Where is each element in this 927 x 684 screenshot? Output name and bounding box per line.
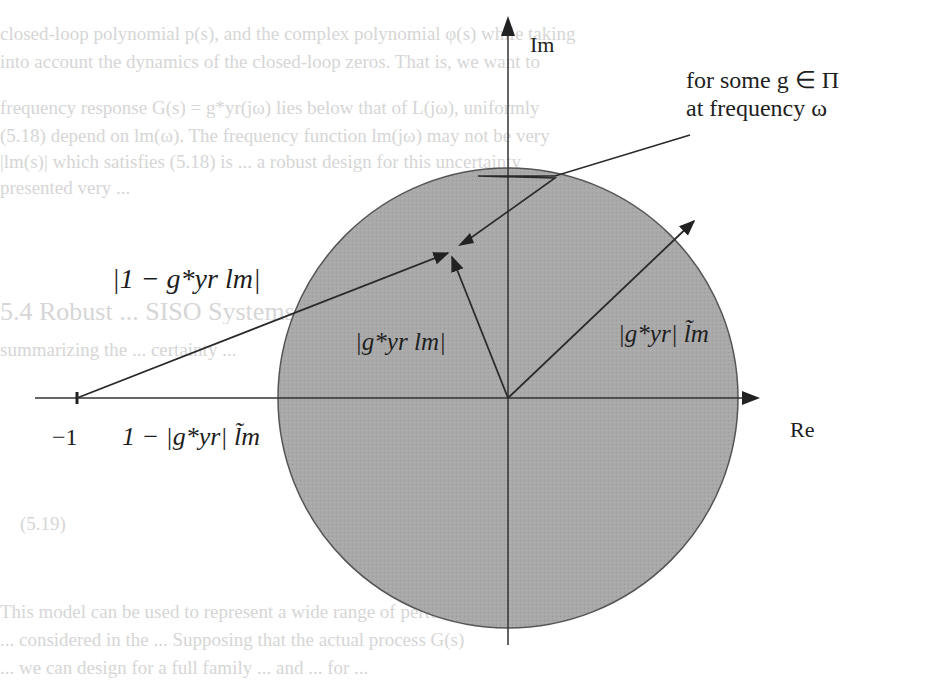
annotation-line-2: at frequency ω xyxy=(686,95,827,121)
label-g-ltilde: |g*yr| l̃m xyxy=(618,320,709,347)
minus-one-label: −1 xyxy=(52,424,78,450)
label-gl: |g*yr lm| xyxy=(355,328,446,355)
annotation-line-1: for some g ∈ Π xyxy=(686,67,839,93)
label-1-minus-gl: |1 − g*yr lm| xyxy=(112,263,261,294)
label-1-minus-g-ltilde: 1 − |g*yr| l̃m xyxy=(122,422,260,451)
imag-axis-arrow-icon xyxy=(501,16,515,36)
imag-axis-label: Im xyxy=(530,32,554,57)
real-axis-label: Re xyxy=(790,417,814,442)
real-axis-arrow-icon xyxy=(742,391,760,405)
nyquist-robustness-diagram: Im Re −1 for some g ∈ Π at frequency ω |… xyxy=(0,0,927,684)
